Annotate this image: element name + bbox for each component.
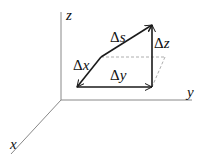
delta-z-label: Δz (154, 35, 170, 51)
y-axis-label: y (185, 84, 194, 100)
delta-y-label: Δy (110, 67, 127, 83)
delta-s-label: Δs (110, 29, 126, 45)
x-axis-label: x (9, 136, 17, 152)
delta-s-vector (101, 25, 152, 57)
z-axis-label: z (65, 7, 72, 23)
displacement-diagram: z y x Δs Δz Δx Δy (0, 0, 204, 164)
x-axis (11, 100, 61, 154)
dashed-guide-diagonal (152, 57, 165, 87)
delta-x-label: Δx (73, 57, 90, 73)
